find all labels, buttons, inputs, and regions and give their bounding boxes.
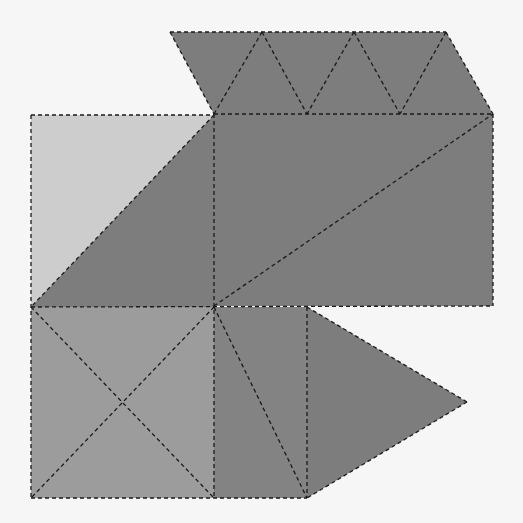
face-top-parallelogram-strip <box>170 32 493 114</box>
face-right-triangle-flap <box>307 307 467 498</box>
net-diagram <box>0 0 523 523</box>
